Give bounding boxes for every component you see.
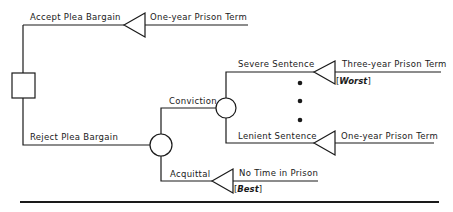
best-note: [Best] <box>234 184 262 194</box>
bottom-rule <box>20 201 439 203</box>
decision-tree-diagram: Accept Plea Bargain One-year Prison Term… <box>0 0 453 212</box>
severe-sentence-label: Severe Sentence <box>238 59 315 69</box>
lenient-sentence-label: Lenient Sentence <box>238 131 317 141</box>
severe-outcome-label: Three-year Prison Term <box>341 59 447 69</box>
lenient-outcome-label: One-year Prison Term <box>341 131 438 141</box>
terminal-triangle-lenient <box>314 131 335 155</box>
reject-plea-label: Reject Plea Bargain <box>30 132 118 142</box>
terminal-triangle-severe <box>314 61 335 84</box>
chance-node-trial <box>150 134 172 156</box>
ellipsis-dots <box>298 81 303 123</box>
accept-outcome-label: One-year Prison Term <box>150 12 247 22</box>
accept-plea-label: Accept Plea Bargain <box>30 12 121 22</box>
decision-trunk <box>23 25 150 145</box>
acquittal-outcome-label: No Time in Prison <box>239 168 318 178</box>
chance-node-sentence <box>216 98 236 118</box>
acquittal-label: Acquittal <box>170 169 210 179</box>
worst-note: [Worst] <box>336 76 371 86</box>
terminal-triangle-acquittal <box>212 169 233 193</box>
decision-node-square <box>12 73 35 98</box>
terminal-triangle-accept <box>124 13 145 37</box>
conviction-label: Conviction <box>169 96 217 106</box>
